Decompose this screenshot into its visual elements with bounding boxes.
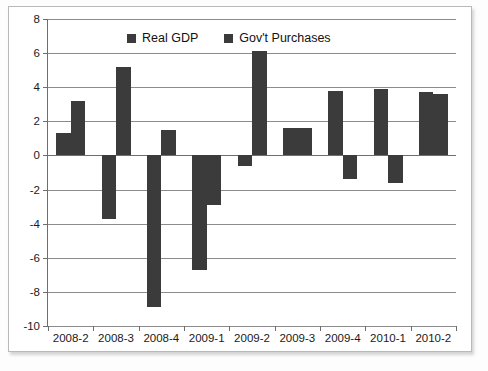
y-axis-line xyxy=(47,19,48,326)
y-tick-label: -4 xyxy=(30,218,40,230)
x-tick-mark xyxy=(320,326,321,331)
bar xyxy=(147,155,162,307)
x-tick-mark xyxy=(275,326,276,331)
y-tick-mark xyxy=(43,224,48,225)
plot-area: 86420-2-4-6-8-10 2008-22008-32008-42009-… xyxy=(48,19,456,326)
gridline xyxy=(48,19,456,20)
legend-item: Real GDP xyxy=(127,31,198,45)
bar xyxy=(433,94,448,155)
legend-item: Gov't Purchases xyxy=(224,31,330,45)
bar xyxy=(56,133,71,155)
bar xyxy=(207,155,222,204)
legend-label: Real GDP xyxy=(142,31,198,45)
scanned-page: Real GDPGov't Purchases 86420-2-4-6-8-10… xyxy=(0,0,488,371)
x-tick-mark xyxy=(93,326,94,331)
y-tick-label: 4 xyxy=(34,81,40,93)
y-tick-mark xyxy=(43,87,48,88)
legend-label: Gov't Purchases xyxy=(239,31,330,45)
x-tick-label: 2010-2 xyxy=(415,332,451,344)
gridline xyxy=(48,326,456,327)
y-tick-label: -8 xyxy=(30,286,40,298)
y-tick-mark xyxy=(43,190,48,191)
x-tick-label: 2009-3 xyxy=(279,332,315,344)
bar xyxy=(102,155,117,218)
bar xyxy=(71,101,86,156)
y-tick-label: -2 xyxy=(30,184,40,196)
bar xyxy=(388,155,403,182)
x-tick-mark xyxy=(139,326,140,331)
y-tick-mark xyxy=(43,121,48,122)
bar xyxy=(328,91,343,156)
bar xyxy=(238,155,253,165)
bar xyxy=(283,128,298,155)
gridline xyxy=(48,258,456,259)
x-tick-mark xyxy=(184,326,185,331)
x-tick-mark xyxy=(229,326,230,331)
y-tick-label: 0 xyxy=(34,149,40,161)
x-tick-label: 2010-1 xyxy=(370,332,406,344)
y-tick-mark xyxy=(43,155,48,156)
x-tick-mark xyxy=(456,326,457,331)
gridline xyxy=(48,292,456,293)
bar xyxy=(252,51,267,155)
bar xyxy=(116,67,131,156)
gridline xyxy=(48,224,456,225)
y-tick-label: -10 xyxy=(23,320,40,332)
bar xyxy=(374,89,389,156)
x-tick-label: 2009-4 xyxy=(325,332,361,344)
y-tick-mark xyxy=(43,292,48,293)
legend-swatch-real-gdp-icon xyxy=(127,34,136,43)
y-tick-label: 8 xyxy=(34,13,40,25)
y-tick-label: 2 xyxy=(34,115,40,127)
x-tick-mark xyxy=(365,326,366,331)
chart-legend: Real GDPGov't Purchases xyxy=(127,31,331,45)
x-tick-mark xyxy=(48,326,49,331)
y-tick-label: 6 xyxy=(34,47,40,59)
x-tick-label: 2008-2 xyxy=(53,332,89,344)
bar xyxy=(343,155,358,179)
y-tick-mark xyxy=(43,53,48,54)
bar xyxy=(419,92,434,155)
y-tick-mark xyxy=(43,258,48,259)
bar xyxy=(161,130,176,156)
y-tick-mark xyxy=(43,19,48,20)
x-tick-label: 2009-2 xyxy=(234,332,270,344)
y-tick-label: -6 xyxy=(30,252,40,264)
x-tick-label: 2009-1 xyxy=(189,332,225,344)
chart-frame: Real GDPGov't Purchases 86420-2-4-6-8-10… xyxy=(8,6,472,352)
x-tick-label: 2008-4 xyxy=(143,332,179,344)
x-tick-mark xyxy=(411,326,412,331)
bar xyxy=(192,155,207,269)
legend-swatch-govt-purchases-icon xyxy=(224,34,233,43)
x-tick-label: 2008-3 xyxy=(98,332,134,344)
bar xyxy=(297,128,312,155)
